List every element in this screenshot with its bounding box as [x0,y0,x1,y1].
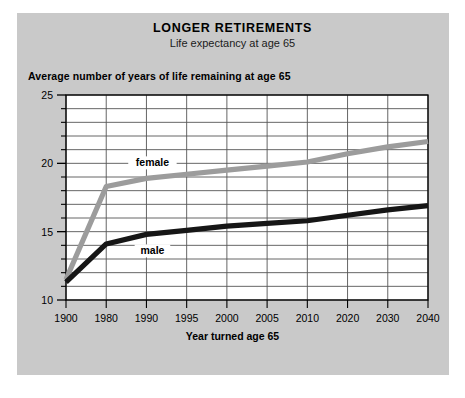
x-tick-label: 1990 [135,312,159,324]
x-tick-label: 2000 [215,312,239,324]
x-tick-label: 1995 [175,312,199,324]
plot-background [66,95,428,300]
x-tick-label: 2030 [376,312,400,324]
chart-svg: 10152025 1900198019901995200020052010202… [0,0,465,398]
x-tick-label: 1900 [54,312,78,324]
y-tick-label: 20 [41,157,53,169]
y-tick-label: 25 [41,89,53,101]
x-tick-label: 2010 [296,312,320,324]
x-tick-label: 2005 [255,312,279,324]
y-tick-label: 15 [41,226,53,238]
y-tick-labels: 10152025 [41,89,53,306]
plot-area: 10152025 1900198019901995200020052010202… [0,0,465,398]
x-tick-labels: 1900198019901995200020052010202020302040 [54,312,440,324]
x-tick-label: 2020 [336,312,360,324]
series-label-female: female [136,156,169,168]
series-label-male: male [140,244,164,256]
x-tick-label: 1980 [95,312,119,324]
x-tick-label: 2040 [416,312,440,324]
chart-figure: LONGER RETIREMENTS Life expectancy at ag… [0,0,465,398]
y-tick-label: 10 [41,294,53,306]
